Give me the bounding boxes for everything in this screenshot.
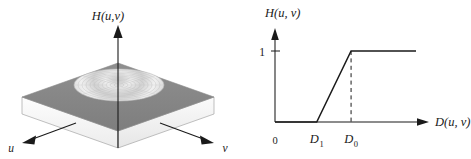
y-axis-label: H(u, v) <box>264 6 300 20</box>
x-tick-label-d0-base: D <box>343 132 353 146</box>
h-axis-arrowhead <box>113 25 122 38</box>
v-axis-label: v <box>222 142 228 154</box>
x-tick-label-d0: D0 <box>343 132 358 149</box>
x-axis-label: D(u, v) <box>434 115 470 129</box>
figure-root: H(u,v) u v H(u, v) D(u, v) 1 0 <box>0 0 471 159</box>
cross-section-plot-panel: H(u, v) D(u, v) 1 0 D1 D0 <box>235 0 471 159</box>
perspective-plot-svg: H(u,v) u v <box>0 0 236 159</box>
y-tick-label-one: 1 <box>259 46 265 58</box>
v-axis-line <box>160 123 206 140</box>
h-axis-label: H(u,v) <box>91 9 124 23</box>
y-axis-arrowhead <box>271 28 279 40</box>
transfer-function-curve <box>275 51 416 122</box>
u-axis-line <box>30 123 76 140</box>
x-tick-label-d1-subscript: 1 <box>319 139 323 149</box>
x-axis-arrowhead <box>417 118 429 125</box>
u-axis-label: u <box>8 142 14 154</box>
perspective-plot-panel: H(u,v) u v <box>0 0 236 159</box>
x-tick-label-origin: 0 <box>272 135 277 146</box>
x-tick-label-d1-base: D <box>309 132 319 146</box>
x-tick-label-d1: D1 <box>309 132 324 149</box>
x-tick-label-d0-subscript: 0 <box>354 139 358 149</box>
cross-section-plot-svg: H(u, v) D(u, v) 1 0 D1 D0 <box>235 0 471 159</box>
v-axis-arrowhead <box>200 135 214 144</box>
u-axis-arrowhead <box>22 135 36 144</box>
